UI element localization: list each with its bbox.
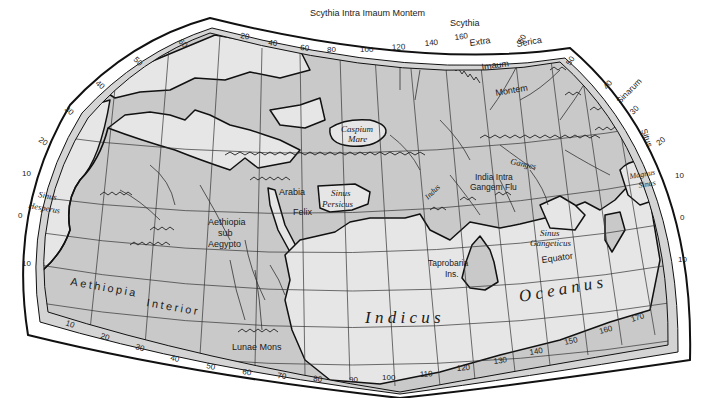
label-felix: Felix bbox=[293, 207, 313, 217]
tick-label: 10 bbox=[22, 259, 31, 268]
tick-label: 140 bbox=[424, 38, 439, 48]
tick-label: 120 bbox=[456, 363, 471, 373]
label-indicus: I n d i c u s bbox=[364, 308, 441, 327]
tick-label: 40 bbox=[268, 38, 279, 48]
label-taprobana: Taprobaria bbox=[428, 258, 468, 268]
label-caspium: Caspium bbox=[341, 124, 374, 134]
label-sinus-persicus-1: Sinus bbox=[331, 188, 351, 198]
tick-label: 60 bbox=[300, 43, 310, 53]
label-scythia: Scythia bbox=[450, 18, 480, 28]
label-aethiopia-sub-aegypto-2: sub bbox=[218, 228, 233, 238]
tick-label: 70 bbox=[277, 371, 288, 381]
tick-label: 100 bbox=[382, 373, 396, 382]
label-scythia-intra-imaum-montem: Scythia Intra Imaum Montem bbox=[310, 8, 425, 18]
tick-label: 10 bbox=[22, 169, 31, 178]
label-sinus-persicus-2: Persicus bbox=[321, 199, 353, 209]
label-gangem-flu: Gangem Flu bbox=[470, 182, 517, 192]
tick-label: 80 bbox=[313, 374, 323, 384]
ptolemy-world-map: 20 40 60 80 100 120 140 160 10 20 30 40 … bbox=[0, 0, 701, 398]
tick-label: 100 bbox=[360, 45, 374, 54]
tick-label: 160 bbox=[454, 31, 469, 42]
label-taprobana-ins: Ins. bbox=[445, 269, 459, 279]
tick-label: 20 bbox=[655, 135, 668, 148]
label-sinarum: Sinarum bbox=[614, 76, 643, 105]
tick-label: 10 bbox=[678, 255, 687, 264]
tick-label: 20 bbox=[37, 135, 50, 148]
label-aethiopia-sub-aegypto-3: Aegypto bbox=[208, 239, 241, 249]
label-sinus-gangeticus-1: Sinus bbox=[540, 228, 560, 238]
label-extra: Extra bbox=[469, 35, 491, 48]
tick-label: 120 bbox=[392, 42, 406, 52]
label-arabia: Arabia bbox=[279, 187, 305, 197]
tick-label: 80 bbox=[327, 45, 336, 54]
tick-label: 110 bbox=[420, 369, 434, 379]
tick-label: 10 bbox=[675, 171, 684, 180]
tick-label: 90 bbox=[349, 375, 358, 384]
label-aethiopia-sub-aegypto-1: Aethiopia bbox=[208, 217, 246, 227]
tick-label: 0 bbox=[18, 211, 23, 220]
label-mare: Mare bbox=[347, 134, 367, 144]
tick-label: 0 bbox=[680, 213, 685, 222]
label-lunae-mons: Lunae Mons bbox=[232, 342, 282, 352]
label-sinus-gangeticus-2: Gangeticus bbox=[530, 238, 571, 248]
tick-label: 130 bbox=[493, 355, 508, 366]
label-india-intra: India Intra bbox=[475, 172, 513, 182]
